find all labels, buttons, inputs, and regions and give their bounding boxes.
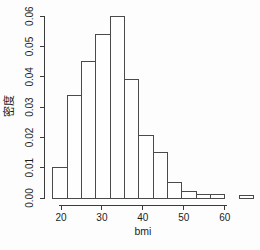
histogram-bar xyxy=(196,194,210,198)
y-tick-label: 0.06 xyxy=(24,6,35,26)
x-axis-label: bmi xyxy=(135,225,152,237)
bmi-histogram-figure: 20304050600.000.010.020.030.040.050.06 b… xyxy=(0,0,260,250)
histogram-bar xyxy=(110,16,124,198)
x-tick-label: 50 xyxy=(178,212,190,223)
histogram-bar xyxy=(167,183,181,198)
histogram-bar xyxy=(96,34,110,198)
y-tick-label: 0.05 xyxy=(24,36,35,56)
histogram-bar xyxy=(82,62,96,198)
x-tick-label: 40 xyxy=(137,212,149,223)
y-axis-label: 密度 xyxy=(2,95,15,117)
histogram-bar xyxy=(210,194,224,198)
y-tick-label: 0.00 xyxy=(24,188,35,208)
y-tick-label: 0.01 xyxy=(24,158,35,178)
y-tick-label: 0.03 xyxy=(24,97,35,117)
histogram-bar xyxy=(139,136,153,198)
y-tick-label: 0.04 xyxy=(24,67,35,87)
histogram-bar xyxy=(239,196,253,198)
x-tick-label: 30 xyxy=(96,212,108,223)
histogram-bars xyxy=(53,16,254,198)
x-tick-label: 60 xyxy=(219,212,231,223)
histogram-bar xyxy=(153,153,167,198)
y-tick-label: 0.02 xyxy=(24,127,35,147)
histogram-bar xyxy=(124,80,138,198)
histogram-bar xyxy=(67,95,81,198)
histogram-bar xyxy=(53,168,67,198)
bmi-histogram-plot: 20304050600.000.010.020.030.040.050.06 b… xyxy=(0,0,260,250)
histogram-bar xyxy=(182,192,196,198)
x-tick-label: 20 xyxy=(55,212,67,223)
